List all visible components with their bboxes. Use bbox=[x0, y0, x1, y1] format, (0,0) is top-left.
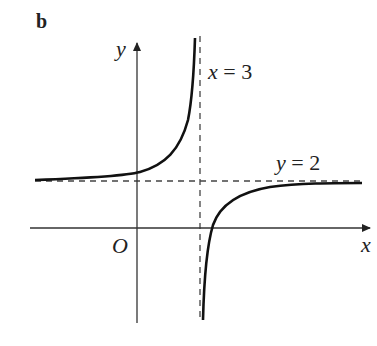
curve-left-branch bbox=[35, 38, 195, 180]
x-axis-label: x bbox=[360, 232, 371, 257]
y-axis-label: y bbox=[114, 36, 126, 61]
hyperbola-diagram: b y x O x = 3 y = 2 bbox=[0, 0, 377, 346]
horizontal-asymptote-label: y = 2 bbox=[274, 150, 320, 175]
curve-right-branch bbox=[203, 183, 362, 320]
vertical-asymptote-label: x = 3 bbox=[207, 59, 252, 84]
origin-label: O bbox=[112, 233, 128, 258]
panel-label: b bbox=[36, 10, 47, 32]
